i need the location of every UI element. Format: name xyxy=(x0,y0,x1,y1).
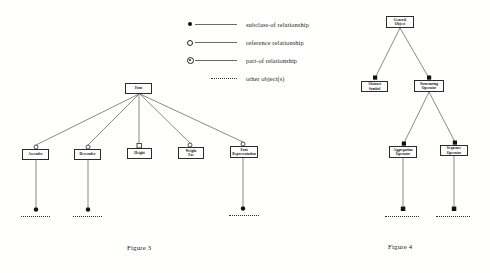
legend-row-subclass: subclass-of relationship xyxy=(187,20,309,28)
other-objects-dotted-line xyxy=(385,216,419,217)
fig3-node-child5: Font Representation xyxy=(230,146,258,158)
legend-row-reference: reference relationship xyxy=(187,38,304,46)
part-of-icon xyxy=(187,56,195,64)
legend-row-partof: part-of relationship xyxy=(187,56,297,64)
legend-line xyxy=(195,42,237,43)
node-label: Height xyxy=(134,151,144,155)
subclass-marker-icon xyxy=(401,207,406,212)
legend-row-other: other object(s) xyxy=(211,74,285,82)
fig3-node-child3: Height xyxy=(127,148,152,159)
fig3-terminal-dots xyxy=(34,206,245,211)
node-label: Operator xyxy=(447,151,461,155)
fig3-node-child4: Weight Fac xyxy=(178,147,204,159)
subclass-marker-icon xyxy=(86,207,90,211)
legend-line xyxy=(195,24,237,25)
node-label: Symbol xyxy=(369,87,381,91)
figure3-caption: Figure 3 xyxy=(127,244,151,251)
fig3-node-root: Font xyxy=(125,83,152,94)
fig4-node-root: General Object xyxy=(386,16,414,28)
fig4-node-gchild2: Sequence Operator xyxy=(440,145,468,156)
legend-label: other object(s) xyxy=(246,75,285,82)
other-objects-dotted-line xyxy=(436,216,470,217)
fig4-node-left: Abstract Symbol xyxy=(361,81,388,92)
other-objects-dotted-line xyxy=(21,216,50,217)
node-label: Representation xyxy=(232,152,255,156)
node-label: Descender xyxy=(80,152,96,156)
legend-label: subclass-of relationship xyxy=(246,21,309,28)
subclass-marker-icon xyxy=(373,76,377,80)
node-label: Operator xyxy=(396,152,410,156)
node-label: Font xyxy=(135,86,142,90)
other-objects-dotted-line xyxy=(229,215,259,216)
fig4-terminal-dots xyxy=(401,207,457,212)
subclass-marker-icon xyxy=(241,206,245,210)
fig3-node-child2: Descender xyxy=(74,149,101,160)
figure4-caption: Figure 4 xyxy=(388,243,412,250)
dotted-line-icon xyxy=(211,78,237,79)
subclass-marker-icon xyxy=(34,207,38,211)
scanned-figure-page: subclass-of relationship reference relat… xyxy=(0,0,490,273)
legend-label: part-of relationship xyxy=(246,57,297,64)
node-label: Ascender xyxy=(28,152,42,156)
node-label: Operator xyxy=(422,86,436,90)
node-label: Object xyxy=(395,22,405,26)
subclass-of-icon xyxy=(187,20,195,28)
reference-icon xyxy=(187,38,195,46)
legend-line xyxy=(195,60,237,61)
legend-label: reference relationship xyxy=(246,39,304,46)
fig4-node-gchild1: Aggregation Operator xyxy=(389,146,417,158)
node-label: Fac xyxy=(188,153,194,157)
fig4-node-right: Structuring Operator xyxy=(414,80,444,92)
other-objects-dotted-line xyxy=(73,216,102,217)
subclass-marker-icon xyxy=(452,207,457,212)
fig4-edges xyxy=(375,28,455,206)
fig3-node-child1: Ascender xyxy=(22,149,49,160)
